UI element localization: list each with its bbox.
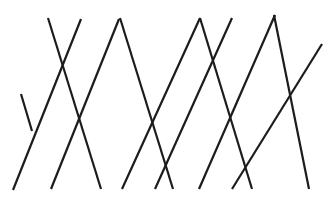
lattice-drawing — [0, 0, 336, 204]
lattice-figure — [0, 0, 336, 204]
